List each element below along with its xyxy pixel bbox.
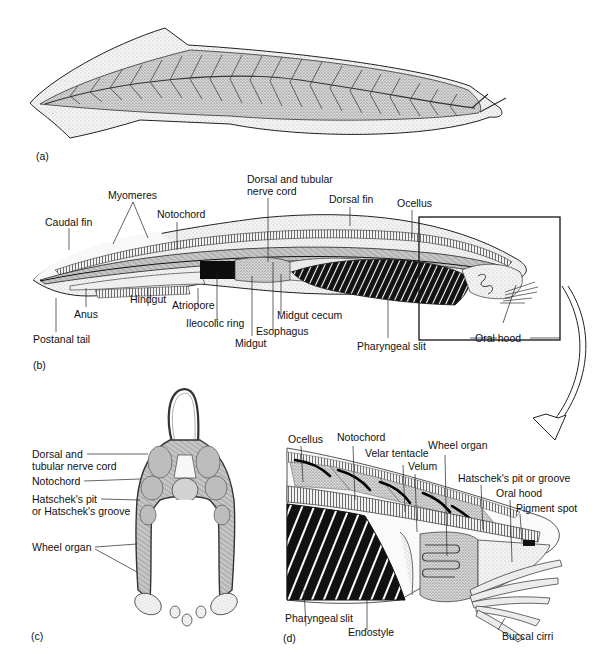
- label-postanal-tail: Postanal tail: [33, 333, 90, 345]
- label-d-endostyle: Endostyle: [348, 626, 394, 638]
- label-d-buccal-cirri: Buccal cirri: [502, 630, 553, 642]
- label-midgut: Midgut: [235, 337, 267, 349]
- panel-b-tag: (b): [33, 359, 46, 371]
- panel-a-tag: (a): [36, 150, 49, 162]
- label-hindgut: Hindgut: [130, 293, 166, 305]
- label-caudal-fin: Caudal fin: [45, 216, 92, 228]
- label-midgut-cecum: Midgut cecum: [277, 309, 342, 321]
- label-c-notochord: Notochord: [32, 475, 80, 487]
- label-d-velum: Velum: [408, 460, 437, 472]
- label-ocellus: Ocellus: [397, 197, 432, 209]
- label-d-pigment-spot: Pigment spot: [516, 502, 577, 514]
- label-anus: Anus: [74, 308, 98, 320]
- label-dorsal-nerve-cord-line1: Dorsal and tubular: [247, 173, 333, 185]
- label-d-hatschek: Hatschek's pit or groove: [458, 472, 570, 484]
- label-d-wheel-organ: Wheel organ: [428, 439, 488, 451]
- label-d-velar-tentacle: Velar tentacle: [365, 447, 429, 459]
- label-esophagus: Esophagus: [256, 325, 309, 337]
- label-pharyngeal-slit: Pharyngeal slit: [357, 340, 426, 352]
- ileocolic-ring-shape: [200, 261, 235, 279]
- label-c-dorsal-nerve-cord-line2: tubular nerve cord: [32, 460, 117, 472]
- panel-d-tag: (d): [283, 632, 296, 644]
- label-oral-hood: Oral hood: [475, 332, 521, 344]
- label-d-oral-hood: Oral hood: [496, 487, 542, 499]
- label-d-slit: slit: [340, 612, 353, 624]
- label-dorsal-nerve-cord-line2: nerve cord: [247, 185, 297, 197]
- label-c-wheel-organ: Wheel organ: [32, 541, 92, 553]
- label-d-notochord: Notochord: [337, 431, 385, 443]
- label-ileocolic-ring: Ileocolic ring: [186, 317, 244, 329]
- label-c-hatschek-line2: or Hatschek's groove: [32, 505, 130, 517]
- panel-a-lancelet-body: [30, 28, 506, 138]
- label-dorsal-fin: Dorsal fin: [329, 193, 373, 205]
- label-c-hatschek-line1: Hatschek's pit: [32, 493, 97, 505]
- label-atriopore: Atriopore: [172, 299, 215, 311]
- label-notochord: Notochord: [157, 208, 205, 220]
- panel-c-tag: (c): [31, 630, 43, 642]
- label-d-ocellus: Ocellus: [288, 433, 323, 445]
- label-d-pharyngeal: Pharyngeal: [285, 612, 338, 624]
- label-c-dorsal-nerve-cord-line1: Dorsal and: [32, 448, 83, 460]
- label-myomeres: Myomeres: [108, 189, 157, 201]
